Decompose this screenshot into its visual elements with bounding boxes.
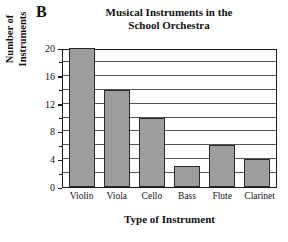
x-axis-tick-label: Flute [209, 190, 235, 204]
x-axis-tick-label: Viola [104, 190, 130, 204]
bar [209, 145, 235, 187]
x-axis-tick-label: Bass [174, 190, 200, 204]
x-axis-tick-label: Clarinet [244, 190, 270, 204]
chart-title: Musical Instruments in the School Orches… [64, 6, 274, 32]
y-tick-label: 0 [50, 181, 55, 194]
x-axis-tick-label: Cello [139, 190, 165, 204]
y-tick-label: 16 [45, 70, 55, 83]
bar [104, 90, 130, 187]
bar [244, 159, 270, 187]
x-axis-title: Type of Instrument [62, 212, 277, 226]
y-tick-label: 8 [50, 125, 55, 138]
panel-letter: B [36, 4, 47, 20]
chart-title-line-1: Musical Instruments in the [64, 6, 274, 19]
y-tick-label: 12 [45, 98, 55, 111]
y-axis: 048121620 [0, 49, 62, 188]
bars-group [63, 50, 276, 187]
x-axis-tick-label: Violin [69, 190, 95, 204]
y-tick-label: 20 [45, 42, 55, 55]
bar [69, 48, 95, 187]
y-tick-label: 4 [50, 153, 55, 166]
plot-area [62, 49, 277, 188]
bar-chart-figure: B Musical Instruments in the School Orch… [0, 0, 288, 242]
x-axis-tick-labels: ViolinViolaCelloBassFluteClarinet [62, 190, 277, 204]
bar [174, 166, 200, 187]
chart-title-line-2: School Orchestra [64, 19, 274, 32]
bar [139, 118, 165, 188]
